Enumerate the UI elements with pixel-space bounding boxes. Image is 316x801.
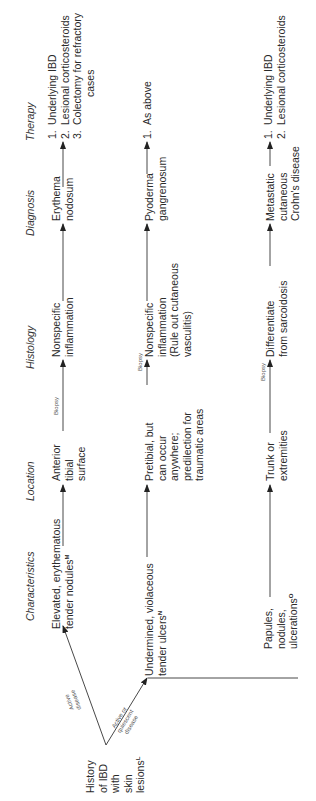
row3-location: Trunk or extremities <box>264 430 289 481</box>
text-line: ulcerationsO <box>287 594 300 649</box>
row3-characteristics: Papules, nodules, ulcerationsO <box>262 594 300 649</box>
header-characteristics: Characteristics <box>24 552 36 621</box>
text-line: Erythema <box>50 176 63 221</box>
text-line: Papules, <box>262 594 275 649</box>
text-line: predilection for <box>181 409 194 481</box>
row2-histology: Nonspecific inflammation (Rule out cutan… <box>143 263 193 357</box>
text-line: Undermined, violaceous <box>143 563 156 676</box>
row3-diagnosis: Metastatic cutaneous Crohn's disease <box>264 146 302 221</box>
text-line: Nonspecific <box>143 263 156 357</box>
footnote-marker: L <box>135 757 141 761</box>
text-line: vasculitis) <box>181 263 194 357</box>
row3-histology: Differentiate from sarcoidosis <box>264 281 289 357</box>
text-line: Crohn's disease <box>289 146 302 221</box>
text-line: Pyoderma <box>143 157 156 221</box>
biopsy-label-row1: Biopsy <box>53 397 59 415</box>
row3-therapy: 1.Underlying IBD 2.Lesional corticostero… <box>262 15 287 139</box>
header-therapy: Therapy <box>24 102 36 141</box>
item-text: Lesional corticosteroids <box>275 15 287 125</box>
biopsy-label-row3: Biopsy <box>260 363 266 381</box>
text-line: tender nodulesM <box>63 519 76 629</box>
text-line: anywhere; <box>168 409 181 481</box>
text-line: can occur <box>156 409 169 481</box>
text-line: Pretibial, but <box>143 409 156 481</box>
text: ulcerations <box>287 598 299 649</box>
text-line: nodules, <box>275 594 288 649</box>
origin-line: History <box>84 757 97 793</box>
item-text: cases <box>84 70 96 97</box>
therapy-list: 1.As above <box>141 81 154 139</box>
text-line: nodosum <box>63 176 76 221</box>
origin-line: with <box>109 757 122 793</box>
text-line: Elevated, erythematous <box>50 519 63 629</box>
text-line: surface <box>75 444 88 481</box>
row2-characteristics: Undermined, violaceous tender ulcersN <box>143 563 168 676</box>
text-line: tibial <box>63 444 76 481</box>
therapy-item: 2.Lesional corticosteroids <box>59 13 72 139</box>
therapy-item: 1.As above <box>141 81 154 139</box>
row1-location: Anterior tibial surface <box>50 444 88 481</box>
text-line: Nonspecific <box>50 297 63 357</box>
item-text: Colectomy for refractory <box>71 13 83 125</box>
text: tender nodules <box>63 560 75 629</box>
text-line: Anterior <box>50 444 63 481</box>
text-line: extremities <box>277 430 290 481</box>
header-diagnosis: Diagnosis <box>24 190 36 236</box>
item-text: Underlying IBD <box>46 54 58 125</box>
row2-location: Pretibial, but can occur anywhere; predi… <box>143 409 206 481</box>
origin-line: lesionsL <box>134 757 147 793</box>
therapy-item: 2.Lesional corticosteroids <box>275 15 288 139</box>
text-line: tender ulcersN <box>156 563 169 676</box>
item-number: 2. <box>59 130 72 139</box>
text: tender ulcers <box>156 615 168 676</box>
item-text: Underlying IBD <box>262 54 274 125</box>
text-line: traumatic areas <box>193 409 206 481</box>
text-line: inflammation <box>63 297 76 357</box>
text-line: from sarcoidosis <box>277 281 290 357</box>
therapy-list: 1.Underlying IBD 2.Lesional corticostero… <box>262 15 287 139</box>
therapy-item: 1.Underlying IBD <box>262 15 275 139</box>
item-number: 2. <box>275 130 288 139</box>
text-line: cutaneous <box>277 146 290 221</box>
origin-line: skin <box>122 757 135 793</box>
therapy-list: 1.Underlying IBD 2.Lesional corticostero… <box>46 13 96 139</box>
footnote-marker: M <box>63 555 69 560</box>
footnote-marker: N <box>156 611 162 615</box>
footnote-marker: O <box>288 594 294 599</box>
row2-therapy: 1.As above <box>141 81 154 139</box>
header-location: Location <box>24 461 36 501</box>
text-line: Trunk or <box>264 430 277 481</box>
therapy-item: 1.Underlying IBD <box>46 13 59 139</box>
text-line: gangrenosum <box>156 157 169 221</box>
origin-line-text: lesions <box>134 760 146 793</box>
origin-history-of-ibd: History of IBD with skin lesionsL <box>84 757 147 793</box>
row1-therapy: 1.Underlying IBD 2.Lesional corticostero… <box>46 13 96 139</box>
origin-line: of IBD <box>97 757 110 793</box>
item-number: 3. <box>71 130 84 139</box>
row1-histology: Nonspecific inflammation <box>50 297 75 357</box>
item-number: 1. <box>262 130 275 139</box>
text-line: (Rule out cutaneous <box>168 263 181 357</box>
ibd-skin-lesion-flowchart: Characteristics Location Histology Diagn… <box>0 0 316 801</box>
row1-diagnosis: Erythema nodosum <box>50 176 75 221</box>
therapy-item: 3.Colectomy for refractory <box>71 13 84 139</box>
text-line: inflammation <box>156 263 169 357</box>
item-number: 1. <box>141 130 154 139</box>
item-number: 1. <box>46 130 59 139</box>
row1-characteristics: Elevated, erythematous tender nodulesM <box>50 519 75 629</box>
item-text: As above <box>141 81 153 125</box>
therapy-item-continued: cases <box>84 13 97 139</box>
text-line: Differentiate <box>264 281 277 357</box>
text-line: Metastatic <box>264 146 277 221</box>
header-histology: Histology <box>24 326 36 369</box>
row2-diagnosis: Pyoderma gangrenosum <box>143 157 168 221</box>
item-text: Lesional corticosteroids <box>59 15 71 125</box>
arrow-active-disease <box>63 626 106 745</box>
